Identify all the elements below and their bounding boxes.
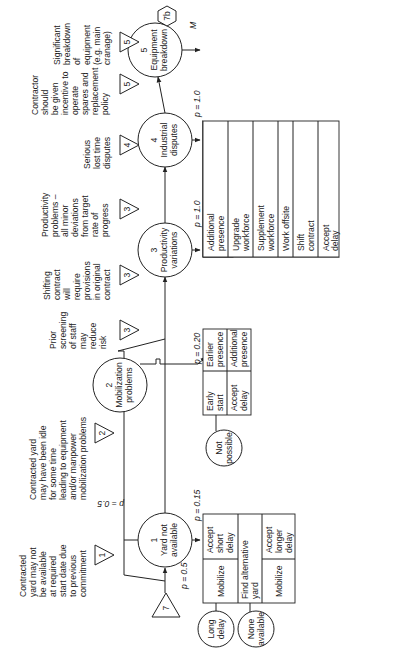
svg-text:Supplement: Supplement bbox=[256, 205, 266, 251]
svg-text:p = 0.15: p = 0.15 bbox=[192, 489, 202, 522]
fallback-not-possible: Not possible bbox=[206, 430, 242, 466]
svg-text:equipment: equipment bbox=[82, 24, 92, 65]
svg-text:short: short bbox=[215, 533, 225, 553]
description-node-5: Significant breakdown of equipment (e.g.… bbox=[52, 23, 112, 65]
svg-text:Mobilization: Mobilization bbox=[114, 362, 124, 408]
svg-text:mobilization problems: mobilization problems bbox=[78, 417, 88, 500]
svg-text:Additional: Additional bbox=[206, 213, 216, 251]
risk-rating-4: 4 bbox=[120, 135, 139, 155]
svg-text:breakdown: breakdown bbox=[62, 23, 72, 65]
svg-text:Upgrade: Upgrade bbox=[231, 218, 241, 251]
svg-text:replacement: replacement bbox=[90, 67, 100, 115]
svg-text:5: 5 bbox=[122, 81, 132, 86]
svg-text:Yard not: Yard not bbox=[159, 523, 169, 555]
main-flow bbox=[118, 26, 165, 593]
svg-text:M: M bbox=[188, 21, 198, 29]
svg-text:Contracted: Contracted bbox=[18, 555, 28, 597]
svg-text:delay: delay bbox=[225, 532, 235, 553]
end-marker-label: 7b bbox=[162, 11, 172, 21]
svg-text:Early: Early bbox=[205, 391, 215, 411]
svg-text:4: 4 bbox=[122, 142, 132, 147]
svg-text:cranage): cranage) bbox=[102, 31, 112, 65]
svg-text:in original: in original bbox=[92, 263, 102, 300]
svg-text:Serious: Serious bbox=[82, 140, 92, 169]
svg-text:should: should bbox=[40, 89, 50, 115]
svg-text:be available: be available bbox=[38, 551, 48, 597]
risk-descriptions: Contracted yard may not be available at … bbox=[18, 23, 112, 597]
risk-rating-4-pre: 3 bbox=[120, 199, 139, 219]
svg-text:4: 4 bbox=[149, 137, 159, 142]
svg-text:of staff: of staff bbox=[68, 323, 78, 349]
svg-text:p = 1.0: p = 1.0 bbox=[192, 90, 202, 118]
svg-text:breakdown: breakdown bbox=[159, 29, 169, 71]
svg-text:available: available bbox=[169, 523, 179, 557]
risk-rating-3-pre: 3 bbox=[120, 320, 139, 340]
svg-text:yard may not: yard may not bbox=[28, 547, 38, 597]
end-marker-hexagon: 7b bbox=[158, 6, 176, 26]
node-4-industrial-disputes: 4 Industrial disputes bbox=[138, 113, 192, 167]
response-table-mobilization: Early start Earlier presence Accept dela… bbox=[203, 329, 251, 466]
svg-text:2: 2 bbox=[97, 430, 107, 435]
svg-text:Equipment: Equipment bbox=[149, 29, 159, 71]
svg-text:start date due: start date due bbox=[58, 544, 68, 597]
svg-text:(e.g. main: (e.g. main bbox=[92, 27, 102, 65]
pre-description-node-3: Prior screening of staff may reduce risk bbox=[48, 312, 108, 349]
svg-text:contract: contract bbox=[102, 269, 112, 300]
svg-text:3: 3 bbox=[122, 272, 132, 277]
svg-text:longer: longer bbox=[274, 529, 284, 553]
svg-text:contract: contract bbox=[306, 220, 316, 251]
response-table-yard: Mobilize Accept short delay Find alterna… bbox=[198, 514, 295, 647]
svg-text:delay: delay bbox=[239, 390, 249, 411]
svg-text:Mobilize: Mobilize bbox=[216, 565, 226, 597]
fallback-none-available-yard: None available bbox=[238, 611, 274, 647]
svg-text:Contractor: Contractor bbox=[30, 75, 40, 115]
svg-text:p = 0.5: p = 0.5 bbox=[179, 562, 189, 590]
svg-text:and/or manpower: and/or manpower bbox=[68, 433, 78, 500]
svg-text:leading to equipment: leading to equipment bbox=[58, 420, 68, 500]
svg-text:commitment: commitment bbox=[78, 550, 88, 597]
svg-text:1: 1 bbox=[97, 552, 107, 557]
svg-text:1: 1 bbox=[149, 537, 159, 542]
node-2-mobilization-problems: 2 Mobilization problems bbox=[93, 358, 147, 412]
svg-text:delay: delay bbox=[216, 618, 226, 639]
risk-rating-2: 2 bbox=[95, 423, 114, 443]
description-node-2: Contracted yard may have been idle for s… bbox=[28, 417, 88, 500]
svg-text:disputes: disputes bbox=[169, 124, 179, 156]
svg-text:2: 2 bbox=[104, 382, 114, 387]
svg-text:policy: policy bbox=[100, 92, 110, 115]
svg-text:p = 1.0: p = 1.0 bbox=[192, 200, 202, 228]
svg-text:problems –: problems – bbox=[50, 194, 60, 237]
svg-text:disputes: disputes bbox=[102, 137, 112, 169]
svg-text:workforce: workforce bbox=[241, 214, 251, 252]
svg-text:reduce: reduce bbox=[88, 323, 98, 349]
svg-text:None: None bbox=[246, 619, 256, 640]
svg-text:5: 5 bbox=[139, 47, 149, 52]
fallback-long-delay: Long delay bbox=[198, 611, 234, 647]
svg-text:delay: delay bbox=[330, 230, 340, 251]
svg-text:Work offsite: Work offsite bbox=[281, 206, 291, 251]
node-3-productivity-variations: 3 Productivity variations bbox=[138, 223, 192, 277]
svg-text:Not: Not bbox=[214, 441, 224, 455]
svg-text:Productivity: Productivity bbox=[159, 227, 169, 272]
svg-text:from target: from target bbox=[80, 195, 90, 237]
svg-text:p = 0.20: p = 0.20 bbox=[192, 332, 202, 365]
svg-text:Prior: Prior bbox=[48, 331, 58, 349]
svg-text:of: of bbox=[72, 57, 82, 65]
svg-text:delay: delay bbox=[284, 532, 294, 553]
svg-text:rate of: rate of bbox=[90, 212, 100, 237]
svg-text:all minor: all minor bbox=[60, 204, 70, 237]
svg-text:contract: contract bbox=[52, 269, 62, 300]
svg-text:variations: variations bbox=[169, 232, 179, 269]
svg-text:may have been idle: may have been idle bbox=[38, 425, 48, 500]
svg-text:require: require bbox=[72, 273, 82, 300]
svg-text:Accept: Accept bbox=[264, 526, 274, 553]
svg-text:Significant: Significant bbox=[52, 25, 62, 65]
svg-text:at required: at required bbox=[48, 556, 58, 597]
svg-text:progress: progress bbox=[100, 204, 110, 237]
svg-text:Additional: Additional bbox=[229, 329, 239, 367]
svg-text:Earlier: Earlier bbox=[205, 342, 215, 367]
svg-text:possible: possible bbox=[224, 432, 234, 464]
svg-text:may: may bbox=[78, 332, 88, 349]
svg-text:Shift: Shift bbox=[296, 233, 306, 251]
risk-rating-1: 1 bbox=[95, 545, 114, 565]
